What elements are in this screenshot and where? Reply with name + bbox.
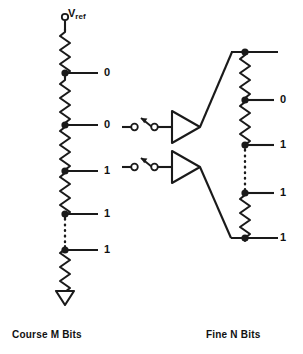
circuit-diagram-figure: Vref 0 0 1 1 1 0 1 1 1 Course M Bits Fin…: [0, 0, 303, 354]
coarse-tap-label-4: 1: [104, 208, 110, 219]
coarse-resistor-3: [60, 124, 70, 173]
coarse-ladder-group: [56, 14, 98, 305]
fine-tap-node-4: [241, 234, 248, 241]
coarse-tap-node-1: [61, 69, 68, 76]
fine-tap-label-4: 1: [280, 232, 286, 243]
schematic-canvas: [0, 0, 303, 354]
fine-resistor-3: [240, 192, 250, 241]
coarse-tap-label-1: 0: [104, 67, 110, 78]
upper-buffer-output-wire: [200, 52, 232, 127]
coarse-tap-label-3: 1: [104, 165, 110, 176]
coarse-tap-label-2: 0: [104, 119, 110, 130]
upper-switch-terminal-right[interactable]: [151, 124, 158, 131]
lower-switch-terminal-right[interactable]: [151, 164, 158, 171]
buffer-lower-triangle: [172, 151, 200, 183]
fine-resistor-1: [240, 52, 250, 101]
upper-switch-terminal-left[interactable]: [131, 124, 138, 131]
fine-tap-label-3: 1: [280, 187, 286, 198]
fine-ladder-caption: Fine N Bits: [206, 329, 260, 340]
fine-tap-label-2: 1: [280, 139, 286, 150]
fine-ladder-group: [231, 48, 278, 241]
fine-tap-node-1: [241, 96, 248, 103]
lower-switch-terminal-left[interactable]: [131, 164, 138, 171]
lower-switch-buffer-group: [122, 151, 231, 238]
ground-arrow-icon: [56, 291, 74, 305]
fine-tap-node-2: [241, 141, 248, 148]
fine-resistor-2: [240, 99, 250, 148]
coarse-tap-node-5: [61, 246, 68, 253]
coarse-tap-node-4: [61, 210, 68, 217]
coarse-tap-node-3: [61, 167, 68, 174]
lower-buffer-output-wire: [200, 167, 231, 238]
coarse-tap-label-5: 1: [104, 244, 110, 255]
buffer-upper-triangle: [172, 111, 200, 143]
coarse-ladder-caption: Course M Bits: [12, 329, 82, 340]
fine-tap-node-3: [241, 189, 248, 196]
upper-switch-buffer-group: [122, 52, 232, 143]
vref-label: Vref: [68, 8, 86, 20]
coarse-resistor-2: [60, 77, 70, 126]
coarse-tap-node-2: [61, 121, 68, 128]
fine-tap-label-1: 0: [280, 94, 286, 105]
